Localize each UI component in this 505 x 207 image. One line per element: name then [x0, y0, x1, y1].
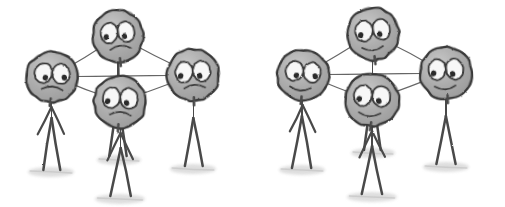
illustration-canvas	[0, 0, 505, 207]
neck-right-group-right-left	[301, 96, 302, 103]
background	[0, 0, 505, 207]
neck-right-group-right-right	[447, 95, 448, 103]
neck-left-group-left-left	[50, 98, 51, 106]
neck-right-group-right-top	[375, 56, 376, 64]
stick-figure-network-svg	[0, 0, 505, 207]
neck-left-group-left-center	[118, 124, 119, 132]
eye-left-left-group-left-top	[100, 22, 118, 44]
neck-left-group-left-top	[120, 58, 121, 66]
neck-left-group-left-right	[194, 97, 195, 105]
eye-white-right-right-group-right-left	[303, 62, 322, 84]
eye-right-right-group-right-left	[303, 62, 322, 84]
eye-white-left-left-group-left-top	[100, 22, 118, 44]
neck-right-group-right-center	[370, 122, 371, 130]
